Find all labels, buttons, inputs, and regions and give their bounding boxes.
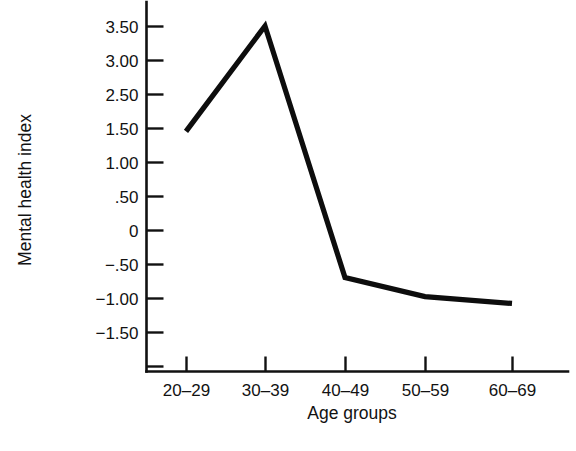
y-tick-label: 2.50 xyxy=(105,86,138,105)
y-tick-label: 1.50 xyxy=(105,120,138,139)
y-tick-label: 3.50 xyxy=(105,18,138,37)
y-axis-tick-marks xyxy=(147,27,164,333)
x-tick-label: 40–49 xyxy=(322,381,369,400)
x-tick-label: 50–59 xyxy=(402,381,449,400)
y-axis-tick-labels: 3.503.002.501.501.00.500−.50−1.00−1.50 xyxy=(95,18,138,343)
y-axis-title: Mental health index xyxy=(15,114,35,266)
y-tick-label: −1.00 xyxy=(95,290,138,309)
x-tick-label: 20–29 xyxy=(163,381,210,400)
x-axis-tick-labels: 20–2930–3940–4950–5960–69 xyxy=(163,381,536,400)
y-tick-label: 3.00 xyxy=(105,52,138,71)
y-tick-label: 0 xyxy=(129,222,138,241)
y-tick-label: .50 xyxy=(115,188,139,207)
line-chart: 3.503.002.501.501.00.500−.50−1.00−1.50 2… xyxy=(0,0,576,451)
x-tick-label: 60–69 xyxy=(489,381,536,400)
y-tick-label: 1.00 xyxy=(105,154,138,173)
y-tick-label: −.50 xyxy=(105,256,139,275)
x-tick-label: 30–39 xyxy=(242,381,289,400)
x-axis-title: Age groups xyxy=(307,403,397,423)
y-tick-label: −1.50 xyxy=(95,324,138,343)
x-axis-tick-marks xyxy=(187,357,513,372)
chart-figure: 3.503.002.501.501.00.500−.50−1.00−1.50 2… xyxy=(0,0,576,451)
data-series-line xyxy=(186,26,512,303)
